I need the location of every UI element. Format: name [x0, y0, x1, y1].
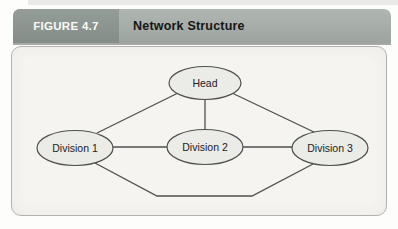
- edge-head-division3: [232, 93, 316, 133]
- node-division-3-label: Division 3: [307, 142, 353, 154]
- node-head-label: Head: [192, 77, 217, 89]
- node-division-2-label: Division 2: [182, 141, 228, 153]
- network-structure-diagram: Head Division 1 Division 2 Division 3: [0, 0, 398, 229]
- node-division-1-label: Division 1: [52, 142, 98, 154]
- edge-head-division1: [97, 93, 178, 133]
- node-division-2: Division 2: [167, 130, 243, 165]
- node-head: Head: [169, 67, 241, 100]
- edge-division1-division3: [95, 163, 313, 196]
- node-division-1: Division 1: [37, 131, 113, 166]
- node-division-3: Division 3: [292, 131, 368, 166]
